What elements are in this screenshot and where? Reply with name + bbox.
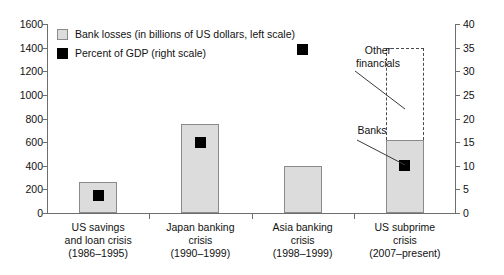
category-label-line: crisis bbox=[252, 234, 354, 247]
bank-crisis-bar-chart: 02004006008001000120014001600 0510152025… bbox=[0, 0, 504, 275]
left-axis-tick-label: 200 bbox=[25, 184, 43, 195]
category-label-line: US savings bbox=[47, 221, 149, 234]
left-axis-tick bbox=[43, 95, 47, 96]
left-axis-tick bbox=[43, 213, 47, 214]
left-axis-tick bbox=[43, 166, 47, 167]
left-axis-tick bbox=[43, 24, 47, 25]
left-axis-tick-label: 400 bbox=[25, 161, 43, 172]
category-label-line: Japan banking bbox=[149, 221, 251, 234]
legend-swatch-light-gray-square-icon bbox=[57, 29, 68, 40]
bar-bank-losses bbox=[284, 166, 322, 213]
right-axis-tick bbox=[456, 48, 460, 49]
right-axis-tick bbox=[456, 95, 460, 96]
marker-percent-of-gdp bbox=[399, 160, 410, 171]
category-label-line: (1986–1995) bbox=[47, 247, 149, 260]
left-axis-tick-label: 800 bbox=[25, 114, 43, 125]
category-label-line: (1998–1999) bbox=[252, 247, 354, 260]
category-label-line: (2007–present) bbox=[354, 247, 456, 260]
left-axis-line bbox=[47, 24, 48, 214]
legend-label-percent-of-gdp: Percent of GDP (right scale) bbox=[75, 48, 206, 59]
bar-bank-losses bbox=[386, 140, 424, 213]
category-label-line: US subprime bbox=[354, 221, 456, 234]
category-label: Japan bankingcrisis(1990–1999) bbox=[149, 221, 251, 260]
right-axis-tick-label: 5 bbox=[463, 184, 469, 195]
marker-percent-of-gdp bbox=[93, 190, 104, 201]
marker-percent-of-gdp bbox=[195, 137, 206, 148]
right-axis-tick-label: 15 bbox=[463, 137, 475, 148]
category-label-line: and loan crisis bbox=[47, 234, 149, 247]
right-axis-tick bbox=[456, 166, 460, 167]
left-axis-tick bbox=[43, 189, 47, 190]
right-axis-tick bbox=[456, 142, 460, 143]
right-axis-tick-label: 35 bbox=[463, 43, 475, 54]
left-axis-tick-label: 1000 bbox=[20, 90, 43, 101]
category-label-line: (1990–1999) bbox=[149, 247, 251, 260]
left-axis-tick bbox=[43, 48, 47, 49]
right-axis-tick bbox=[456, 189, 460, 190]
annotation-other-financials-line2: financials bbox=[348, 57, 408, 70]
left-axis-tick bbox=[43, 142, 47, 143]
right-axis-tick-label: 10 bbox=[463, 161, 475, 172]
right-axis-tick bbox=[456, 119, 460, 120]
category-label: US savingsand loan crisis(1986–1995) bbox=[47, 221, 149, 260]
legend-item-bank-losses: Bank losses (in billions of US dollars, … bbox=[57, 29, 295, 40]
x-axis-separator bbox=[252, 213, 253, 219]
annotation-other-financials: Other financials bbox=[348, 44, 408, 69]
category-label-line: Asia banking bbox=[252, 221, 354, 234]
left-axis-tick-label: 1600 bbox=[20, 19, 43, 30]
right-axis-tick-label: 25 bbox=[463, 90, 475, 101]
right-axis-tick bbox=[456, 24, 460, 25]
legend-swatch-black-square-icon bbox=[57, 48, 68, 59]
left-axis-tick-label: 1400 bbox=[20, 43, 43, 54]
right-axis-tick-label: 30 bbox=[463, 66, 475, 77]
right-axis-tick-label: 40 bbox=[463, 19, 475, 30]
category-label: US subprimecrisis(2007–present) bbox=[354, 221, 456, 260]
legend-label-bank-losses: Bank losses (in billions of US dollars, … bbox=[75, 29, 295, 40]
left-axis-tick bbox=[43, 119, 47, 120]
chart-legend: Bank losses (in billions of US dollars, … bbox=[57, 29, 295, 67]
left-axis-tick-label: 600 bbox=[25, 137, 43, 148]
category-label: Asia bankingcrisis(1998–1999) bbox=[252, 221, 354, 260]
right-axis-tick bbox=[456, 71, 460, 72]
annotation-other-financials-line1: Other bbox=[348, 44, 408, 57]
annotation-banks: Banks bbox=[349, 124, 395, 137]
left-axis-tick bbox=[43, 71, 47, 72]
left-axis-tick-label: 0 bbox=[37, 208, 43, 219]
left-axis-tick-label: 1200 bbox=[20, 66, 43, 77]
right-axis-tick bbox=[456, 213, 460, 214]
x-axis-separator bbox=[354, 213, 355, 219]
right-axis-tick-label: 0 bbox=[463, 208, 469, 219]
right-axis-tick-label: 20 bbox=[463, 114, 475, 125]
category-label-line: crisis bbox=[149, 234, 251, 247]
x-axis-separator bbox=[149, 213, 150, 219]
marker-percent-of-gdp bbox=[297, 44, 308, 55]
category-label-line: crisis bbox=[354, 234, 456, 247]
legend-item-percent-of-gdp: Percent of GDP (right scale) bbox=[57, 48, 295, 59]
